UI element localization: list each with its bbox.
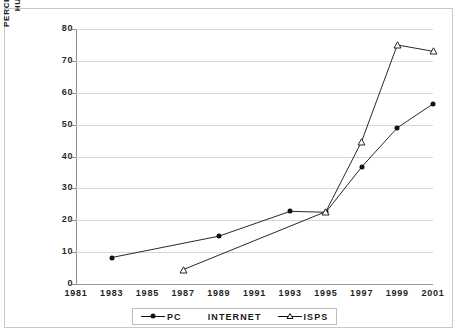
x-tick-label: 1995 xyxy=(314,288,337,298)
data-point-marker-isps xyxy=(321,208,330,216)
data-point-marker-isps xyxy=(357,138,366,146)
y-axis-title-line1: PERCENT OF HOUSEHOLD/ xyxy=(1,0,12,61)
legend-item-isps[interactable]: ISPS xyxy=(278,312,329,322)
y-tick-label: 60 xyxy=(33,87,73,97)
y-tick-label: 40 xyxy=(33,151,73,161)
data-point-marker-isps xyxy=(179,266,188,274)
series-line-pc xyxy=(112,104,433,258)
data-point-marker-pc xyxy=(359,165,364,170)
y-axis-title: PERCENT OF HOUSEHOLD/ HUNDREDS OF ISPS xyxy=(1,0,25,61)
x-tick-label: 1989 xyxy=(207,288,230,298)
x-tick-label: 1985 xyxy=(136,288,159,298)
y-tick-mark xyxy=(72,284,76,285)
legend-label-internet: INTERNET xyxy=(208,312,262,322)
x-tick-label: 1991 xyxy=(243,288,266,298)
open-triangle-icon xyxy=(278,312,302,321)
y-tick-label: 30 xyxy=(33,182,73,192)
y-tick-label: 70 xyxy=(33,55,73,65)
data-point-marker-isps xyxy=(429,47,438,55)
data-point-marker-isps xyxy=(393,41,402,49)
chart-legend: PC INTERNET ISPS xyxy=(132,308,337,325)
data-point-marker-pc xyxy=(288,209,293,214)
data-point-marker-pc xyxy=(109,255,114,260)
y-tick-label: 10 xyxy=(33,246,73,256)
x-tick-label: 2001 xyxy=(421,288,444,298)
legend-label-pc: PC xyxy=(167,312,182,322)
y-tick-label: 50 xyxy=(33,119,73,129)
y-axis-tick-labels: 01020304050607080 xyxy=(33,29,73,284)
filled-diamond-icon xyxy=(141,312,165,321)
x-tick-label: 1983 xyxy=(100,288,123,298)
x-tick-label: 1999 xyxy=(386,288,409,298)
x-tick-label: 1997 xyxy=(350,288,373,298)
x-tick-label: 1981 xyxy=(64,288,87,298)
y-tick-label: 20 xyxy=(33,214,73,224)
x-tick-label: 1987 xyxy=(171,288,194,298)
gridline xyxy=(76,284,433,285)
plot-area xyxy=(76,29,433,284)
y-tick-label: 0 xyxy=(33,278,73,288)
legend-label-isps: ISPS xyxy=(304,312,329,322)
x-axis-tick-labels: 1981198319851987198919911993199519971999… xyxy=(76,288,433,304)
data-point-marker-pc xyxy=(395,125,400,130)
data-point-marker-pc xyxy=(431,101,436,106)
y-tick-label: 80 xyxy=(33,23,73,33)
legend-item-pc[interactable]: PC xyxy=(141,312,182,322)
legend-item-internet[interactable]: INTERNET xyxy=(208,312,262,322)
series-lines xyxy=(76,29,433,284)
data-point-marker-pc xyxy=(216,234,221,239)
x-tick-label: 1993 xyxy=(279,288,302,298)
chart-figure: PERCENT OF HOUSEHOLD/ HUNDREDS OF ISPS 0… xyxy=(4,8,453,328)
y-axis-title-line2: HUNDREDS OF ISPS xyxy=(12,0,23,61)
